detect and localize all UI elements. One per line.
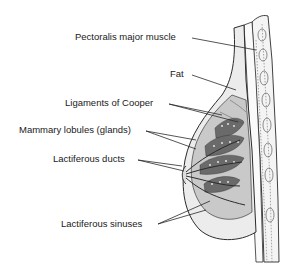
label-sinuses: Lactiferous sinuses [61, 218, 143, 229]
label-fat: Fat [170, 68, 184, 79]
label-ducts: Lactiferous ducts [53, 153, 125, 164]
breast-anatomy-diagram: Pectoralis major muscle Fat Ligaments of… [0, 0, 293, 265]
label-pectoralis: Pectoralis major muscle [75, 31, 176, 42]
label-cooper: Ligaments of Cooper [65, 97, 153, 108]
label-lobules: Mammary lobules (glands) [19, 124, 131, 135]
